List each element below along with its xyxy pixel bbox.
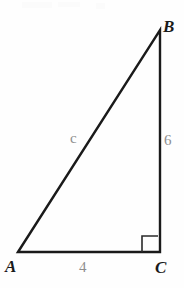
triangle-drawing bbox=[0, 0, 184, 288]
side-label-hypotenuse: c bbox=[70, 131, 77, 146]
geometry-figure: A B C c 6 4 bbox=[0, 0, 184, 288]
side-label-vertical: 6 bbox=[164, 133, 172, 148]
side-label-base: 4 bbox=[79, 260, 87, 275]
triangle-shape bbox=[18, 30, 160, 252]
right-angle-marker bbox=[142, 236, 158, 252]
vertex-label-b: B bbox=[163, 18, 174, 35]
vertex-label-c: C bbox=[155, 259, 166, 276]
vertex-label-a: A bbox=[5, 258, 16, 275]
